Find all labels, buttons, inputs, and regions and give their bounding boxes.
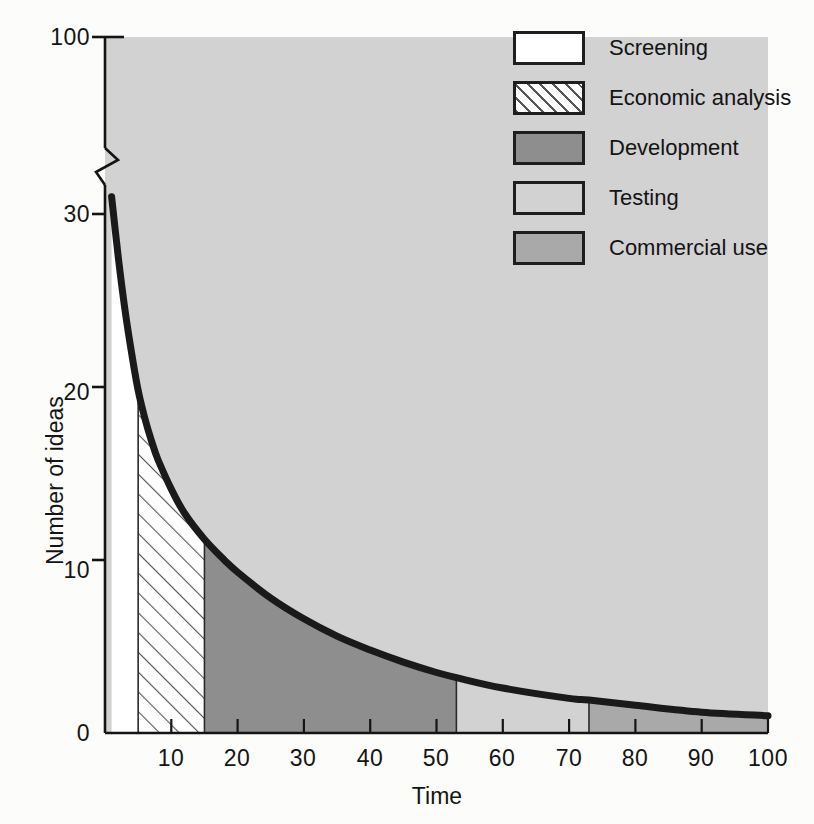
x-axis-title: Time: [412, 783, 462, 810]
legend-item-development[interactable]: Development: [513, 126, 791, 170]
x-tick-label-50: 50: [423, 745, 450, 772]
legend-swatch-economic-analysis: [513, 81, 585, 115]
chart-figure: 100 30 20 10 0 10 20 30 40 50 60 70 80 9…: [0, 0, 814, 824]
x-tick-label-20: 20: [224, 745, 251, 772]
legend: Screening Economic analysis Development …: [513, 26, 791, 276]
legend-swatch-development: [513, 131, 585, 165]
legend-item-economic-analysis[interactable]: Economic analysis: [513, 76, 791, 120]
stage-area-economic-analysis: [138, 0, 204, 733]
x-tick-label-70: 70: [556, 745, 583, 772]
legend-label-development: Development: [609, 135, 739, 161]
x-tick-label-10: 10: [158, 745, 185, 772]
legend-label-economic-analysis: Economic analysis: [609, 85, 791, 111]
legend-swatch-commercial-use: [513, 231, 585, 265]
legend-label-testing: Testing: [609, 185, 679, 211]
x-tick-label-100: 100: [748, 745, 788, 772]
legend-item-testing[interactable]: Testing: [513, 176, 791, 220]
y-tick-label-30: 30: [10, 201, 90, 228]
y-tick-label-0: 0: [10, 720, 90, 747]
x-tick-label-80: 80: [622, 745, 649, 772]
axis-break-zigzag: [96, 148, 118, 185]
x-tick-label-90: 90: [688, 745, 715, 772]
legend-swatch-testing: [513, 181, 585, 215]
legend-item-screening[interactable]: Screening: [513, 26, 791, 70]
y-axis-ticks: [92, 37, 105, 560]
y-axis-title: Number of ideas: [42, 396, 69, 565]
x-tick-label-40: 40: [357, 745, 384, 772]
x-tick-label-30: 30: [290, 745, 317, 772]
stage-area-development: [204, 0, 456, 733]
legend-label-screening: Screening: [609, 35, 708, 61]
x-tick-label-60: 60: [489, 745, 516, 772]
legend-swatch-screening: [513, 31, 585, 65]
legend-item-commercial-use[interactable]: Commercial use: [513, 226, 791, 270]
y-tick-label-100: 100: [10, 24, 90, 51]
legend-label-commercial-use: Commercial use: [609, 235, 768, 261]
